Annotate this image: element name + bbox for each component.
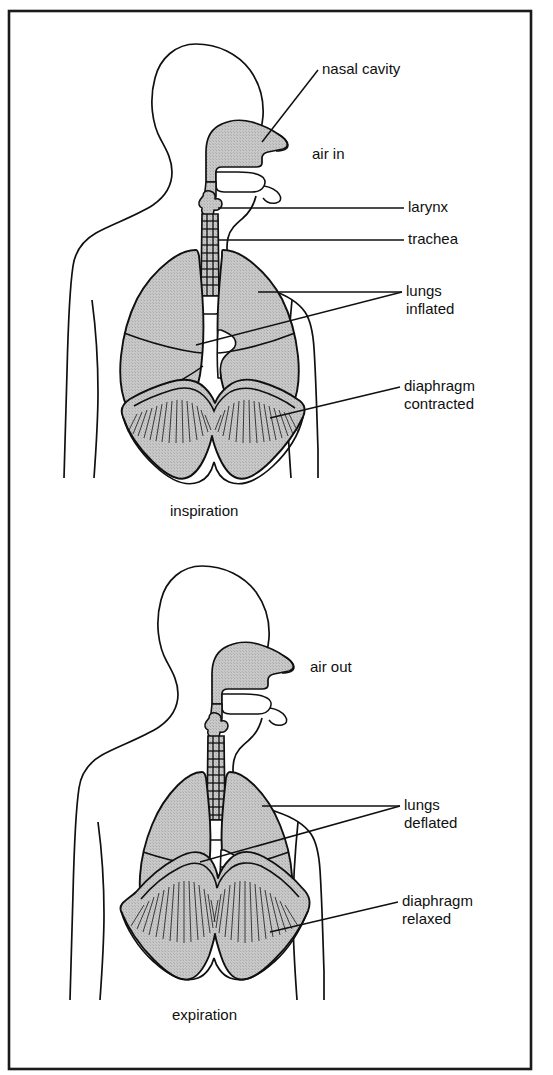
label-diaphragm-contracted-line2: contracted xyxy=(404,395,474,412)
diagram-canvas: nasal cavity air in larynx trachea lungs… xyxy=(0,0,553,1075)
caption-inspiration: inspiration xyxy=(170,502,238,519)
label-lungs-inflated-line2: inflated xyxy=(406,300,454,317)
label-diaphragm-contracted-line1: diaphragm xyxy=(404,377,475,394)
trachea-shape-inspiration xyxy=(201,214,219,296)
label-diaphragm-relaxed-line2: relaxed xyxy=(402,910,451,927)
label-larynx: larynx xyxy=(408,198,449,215)
oral-cavity-shape-expiration xyxy=(222,694,271,714)
label-trachea: trachea xyxy=(408,230,459,247)
caption-expiration: expiration xyxy=(172,1006,237,1023)
label-nasal-cavity: nasal cavity xyxy=(322,60,401,77)
label-diaphragm-relaxed-line1: diaphragm xyxy=(402,892,473,909)
label-lungs-deflated-line2: deflated xyxy=(404,814,457,831)
label-lungs-deflated-line1: lungs xyxy=(404,796,440,813)
oral-cavity-shape xyxy=(216,172,265,192)
label-lungs-inflated-line1: lungs xyxy=(406,282,442,299)
label-air-in: air in xyxy=(312,145,345,162)
label-air-out: air out xyxy=(310,658,353,675)
respiration-diagram: nasal cavity air in larynx trachea lungs… xyxy=(0,0,553,1075)
